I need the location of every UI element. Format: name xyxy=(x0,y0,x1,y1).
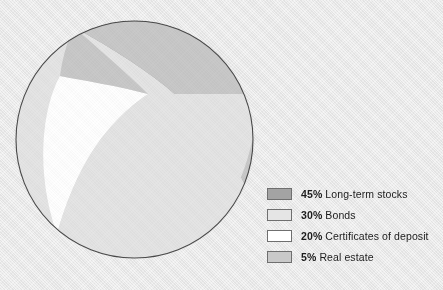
legend-swatch-bonds xyxy=(267,209,292,221)
legend-label-long-term-stocks: 45% Long-term stocks xyxy=(301,188,408,200)
legend-swatch-certificates-of-deposit xyxy=(267,230,292,242)
legend-category: Real estate xyxy=(319,251,373,263)
pie-chart xyxy=(14,20,255,259)
legend-label-real-estate: 5% Real estate xyxy=(301,251,374,263)
legend-item-long-term-stocks: 45% Long-term stocks xyxy=(267,183,443,204)
chart-legend: 45% Long-term stocks 30% Bonds 20% Certi… xyxy=(267,183,443,267)
pie-chart-svg xyxy=(14,20,255,259)
chart-page: 45% Long-term stocks 30% Bonds 20% Certi… xyxy=(0,0,443,290)
legend-percent: 45% xyxy=(301,188,322,200)
legend-label-certificates-of-deposit: 20% Certificates of deposit xyxy=(301,230,429,242)
legend-percent: 5% xyxy=(301,251,316,263)
legend-category: Long-term stocks xyxy=(325,188,407,200)
legend-category: Bonds xyxy=(325,209,355,221)
legend-category: Certificates of deposit xyxy=(325,230,428,242)
legend-item-certificates-of-deposit: 20% Certificates of deposit xyxy=(267,225,443,246)
legend-item-real-estate: 5% Real estate xyxy=(267,246,443,267)
legend-percent: 20% xyxy=(301,230,322,242)
legend-item-bonds: 30% Bonds xyxy=(267,204,443,225)
legend-label-bonds: 30% Bonds xyxy=(301,209,356,221)
legend-swatch-real-estate xyxy=(267,251,292,263)
legend-percent: 30% xyxy=(301,209,322,221)
legend-swatch-long-term-stocks xyxy=(267,188,292,200)
